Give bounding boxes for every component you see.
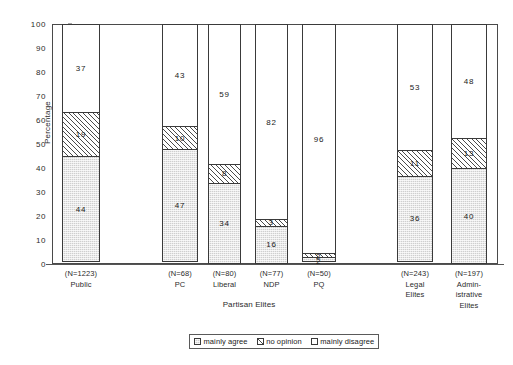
legend-label-mainly-agree: mainly agree bbox=[204, 337, 248, 346]
y-axis-ticks: 0102030405060708090100 bbox=[20, 0, 46, 365]
segment-value: 13 bbox=[464, 149, 475, 158]
segment-mainly-disagree-legal-elites: 53 bbox=[397, 24, 433, 151]
segment-mainly-agree-pc: 47 bbox=[162, 149, 198, 262]
segment-mainly-disagree-ndp: 82 bbox=[255, 24, 288, 220]
category-label-pq: (N=50)PQ bbox=[286, 269, 352, 290]
segment-value: 36 bbox=[410, 214, 421, 223]
legend-label-mainly-disagree: mainly disagree bbox=[320, 337, 374, 346]
y-tick-label-90: 90 bbox=[20, 44, 46, 53]
y-tick-label-30: 30 bbox=[20, 188, 46, 197]
segment-value: 37 bbox=[76, 64, 87, 73]
segment-value: 48 bbox=[464, 77, 475, 86]
legend-swatch-mainly-agree bbox=[194, 338, 201, 345]
segment-mainly-agree-public: 44 bbox=[62, 156, 100, 262]
bar-ndp[interactable]: 82316 bbox=[255, 24, 288, 264]
legend-swatch-mainly-disagree bbox=[311, 338, 318, 345]
stacked-bar-chart: Percentage 0102030405060708090100 371944… bbox=[0, 0, 513, 365]
segment-mainly-disagree-public: 37 bbox=[62, 24, 100, 113]
segment-value: 96 bbox=[314, 135, 325, 144]
segment-mainly-agree-legal-elites: 36 bbox=[397, 176, 433, 262]
segment-value: 8 bbox=[222, 169, 227, 178]
segment-value: 11 bbox=[410, 159, 420, 168]
y-tick-label-40: 40 bbox=[20, 164, 46, 173]
category-name-line: Elites bbox=[436, 301, 502, 312]
legend-item-mainly-disagree[interactable]: mainly disagree bbox=[311, 337, 375, 346]
category-label-public: (N=1223)Public bbox=[48, 269, 114, 290]
segment-no-opinion-pc: 10 bbox=[162, 126, 198, 150]
category-n: (N=1223) bbox=[48, 269, 114, 280]
segment-value: 53 bbox=[410, 83, 421, 92]
y-tick-label-0: 0 bbox=[20, 260, 46, 269]
bar-liberal[interactable]: 59834 bbox=[208, 24, 241, 264]
segment-mainly-disagree-administrative-elites: 48 bbox=[451, 24, 487, 139]
bar-legal-elites[interactable]: 531136 bbox=[397, 24, 433, 264]
segment-value: 44 bbox=[76, 205, 87, 214]
segment-no-opinion-legal-elites: 11 bbox=[397, 150, 433, 176]
segment-value: 47 bbox=[175, 201, 186, 210]
y-tick-label-20: 20 bbox=[20, 212, 46, 221]
y-tick-label-70: 70 bbox=[20, 92, 46, 101]
category-label-administrative-elites: (N=197)Admin-istrativeElites bbox=[436, 269, 502, 311]
segment-value: 40 bbox=[464, 212, 475, 221]
segment-no-opinion-administrative-elites: 13 bbox=[451, 138, 487, 169]
y-tick-label-100: 100 bbox=[20, 20, 46, 29]
category-n: (N=50) bbox=[286, 269, 352, 280]
segment-value: 34 bbox=[219, 219, 230, 228]
bar-pq[interactable]: 9622 bbox=[302, 24, 336, 264]
bar-public[interactable]: 371944 bbox=[62, 24, 100, 264]
legend-item-no-opinion[interactable]: no opinion bbox=[257, 337, 302, 346]
segment-mainly-agree-liberal: 34 bbox=[208, 183, 241, 264]
segment-value: 16 bbox=[266, 240, 277, 249]
category-name-line: istrative bbox=[436, 290, 502, 301]
x-axis-line bbox=[46, 264, 504, 265]
y-tick-label-10: 10 bbox=[20, 236, 46, 245]
legend: mainly agree no opinion mainly disagree bbox=[189, 334, 379, 349]
segment-mainly-agree-administrative-elites: 40 bbox=[451, 168, 487, 264]
segment-mainly-disagree-pq: 96 bbox=[302, 24, 336, 254]
y-tick-label-60: 60 bbox=[20, 116, 46, 125]
segment-value: 10 bbox=[175, 134, 186, 143]
group-label-partisan-elites: Partisan Elites bbox=[189, 300, 309, 309]
segment-value: 82 bbox=[266, 118, 277, 127]
bars-layer: 3719444310475983438231622962253113648134… bbox=[52, 24, 498, 264]
segment-value: 19 bbox=[76, 130, 87, 139]
bar-administrative-elites[interactable]: 481340 bbox=[451, 24, 487, 264]
category-name-line: Admin- bbox=[436, 280, 502, 291]
y-tick-label-50: 50 bbox=[20, 140, 46, 149]
segment-mainly-disagree-pc: 43 bbox=[162, 24, 198, 127]
legend-swatch-no-opinion bbox=[257, 338, 264, 345]
segment-value-external: 3 bbox=[269, 218, 274, 227]
legend-item-mainly-agree[interactable]: mainly agree bbox=[194, 337, 248, 346]
y-tick-label-80: 80 bbox=[20, 68, 46, 77]
category-name-line: PQ bbox=[286, 280, 352, 291]
segment-mainly-agree-ndp: 16 bbox=[255, 226, 288, 264]
segment-mainly-disagree-liberal: 59 bbox=[208, 24, 241, 165]
category-name-line: Public bbox=[48, 280, 114, 291]
segment-value: 59 bbox=[219, 90, 230, 99]
segment-no-opinion-public: 19 bbox=[62, 112, 100, 158]
segment-value: 43 bbox=[175, 71, 186, 80]
segment-value-external: 2 bbox=[316, 252, 321, 261]
bar-pc[interactable]: 431047 bbox=[162, 24, 198, 264]
legend-label-no-opinion: no opinion bbox=[266, 337, 302, 346]
segment-no-opinion-liberal: 8 bbox=[208, 164, 241, 183]
category-n: (N=197) bbox=[436, 269, 502, 280]
